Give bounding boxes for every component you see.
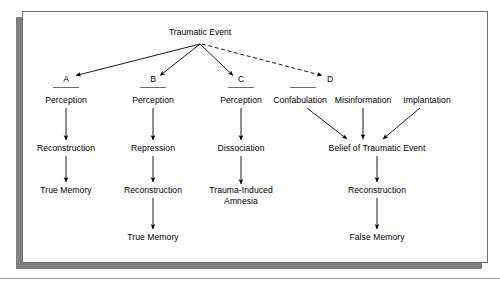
node-b-repression: Repression xyxy=(131,143,175,154)
diagram-canvas: Traumatic Event A B C D Perception Recon… xyxy=(0,0,500,287)
node-d-confabulation: Confabulation xyxy=(273,95,327,106)
node-d-implantation: Implantation xyxy=(403,95,450,106)
page-bottom-rule xyxy=(0,278,500,279)
branch-underline-a xyxy=(53,87,79,88)
branch-underline-c xyxy=(228,87,254,88)
branch-label-d: D xyxy=(327,74,333,84)
figure-frame-border xyxy=(22,11,488,263)
node-c-dissociation: Dissociation xyxy=(218,143,265,154)
node-d-belief-of-traumatic-event: Belief of Traumatic Event xyxy=(329,143,426,154)
node-traumatic-event: Traumatic Event xyxy=(169,27,231,37)
branch-label-c: C xyxy=(238,74,244,84)
node-a-true-memory: True Memory xyxy=(40,185,91,196)
node-a-reconstruction: Reconstruction xyxy=(37,143,95,154)
branch-label-b: B xyxy=(150,74,156,84)
branch-underline-d xyxy=(290,87,316,88)
branch-underline-b xyxy=(140,87,166,88)
node-d-misinformation: Misinformation xyxy=(335,95,392,106)
node-c-perception: Perception xyxy=(220,95,262,106)
node-b-reconstruction: Reconstruction xyxy=(124,185,182,196)
node-d-reconstruction: Reconstruction xyxy=(348,185,406,196)
branch-label-a: A xyxy=(63,74,69,84)
node-a-perception: Perception xyxy=(45,95,87,106)
node-b-perception: Perception xyxy=(132,95,174,106)
node-d-false-memory: False Memory xyxy=(349,232,404,243)
node-b-true-memory: True Memory xyxy=(127,232,178,243)
node-c-trauma-induced-amnesia: Trauma-Induced Amnesia xyxy=(196,185,286,207)
